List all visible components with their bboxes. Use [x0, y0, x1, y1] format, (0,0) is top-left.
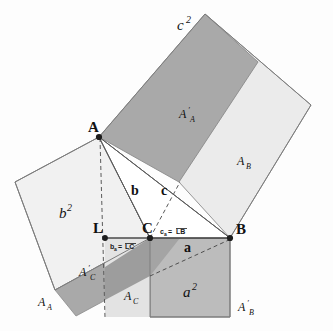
area-label-a-prime-b: A ′ B	[237, 299, 254, 317]
svg-text:a: a	[183, 284, 191, 300]
svg-text:′: ′	[247, 299, 249, 308]
vertex-label-A: A	[88, 119, 99, 135]
svg-text:=: =	[168, 228, 172, 235]
svg-text:′: ′	[88, 264, 90, 273]
svg-text:C: C	[133, 297, 139, 306]
side-label-c: c	[161, 183, 167, 198]
svg-text:LB: LB	[176, 228, 185, 235]
svg-text:A: A	[178, 107, 187, 121]
vertex-label-B: B	[236, 221, 246, 237]
vertex-label-C: C	[142, 220, 153, 236]
svg-text:A: A	[236, 154, 245, 168]
svg-text:a: a	[114, 246, 117, 252]
side-label-b: b	[131, 183, 139, 198]
vertex-dot-B	[227, 235, 233, 241]
svg-text:A: A	[78, 265, 87, 279]
vertex-label-L: L	[93, 220, 103, 236]
svg-text:A: A	[46, 303, 52, 312]
svg-text:′: ′	[188, 106, 190, 115]
svg-text:b: b	[59, 205, 67, 221]
svg-text:=: =	[118, 243, 122, 250]
diagram-canvas: A B C L b c a c 2 b 2 a 2 A ′ A A B	[0, 0, 333, 331]
svg-text:A: A	[37, 295, 46, 309]
svg-text:2: 2	[186, 14, 191, 25]
svg-text:B: B	[246, 162, 251, 171]
svg-text:2: 2	[67, 202, 72, 213]
svg-text:A: A	[237, 300, 246, 314]
pythagorean-diagram: A B C L b c a c 2 b 2 a 2 A ′ A A B	[0, 0, 333, 331]
square-label-c2: c 2	[177, 14, 191, 33]
svg-text:a: a	[164, 231, 167, 237]
svg-text:B: B	[249, 308, 254, 317]
area-label-a-a: A A	[37, 295, 52, 312]
svg-text:LC: LC	[125, 243, 134, 250]
svg-text:2: 2	[192, 281, 197, 292]
svg-text:A: A	[123, 289, 132, 303]
svg-text:C: C	[90, 273, 96, 282]
svg-text:A: A	[189, 115, 195, 124]
side-label-a: a	[184, 240, 191, 255]
svg-text:c: c	[177, 17, 184, 33]
